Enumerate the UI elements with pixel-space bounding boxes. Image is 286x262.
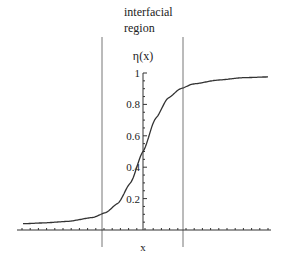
y-tick-label: 0.6 <box>126 130 140 142</box>
y-tick-labels: 0.20.40.60.81 <box>126 67 140 205</box>
y-axis-label: η(x) <box>133 49 153 63</box>
y-tick-label: 0.2 <box>126 193 140 205</box>
x-axis-label: x <box>140 241 146 253</box>
chart: 0.20.40.60.81 η(x) x interfacial region <box>0 0 286 262</box>
y-tick-label: 1 <box>135 67 141 79</box>
annotation-line-1: interfacial <box>124 5 173 19</box>
eta-curve <box>23 77 268 224</box>
y-tick-label: 0.8 <box>126 98 140 110</box>
annotation-line-2: region <box>124 21 155 35</box>
